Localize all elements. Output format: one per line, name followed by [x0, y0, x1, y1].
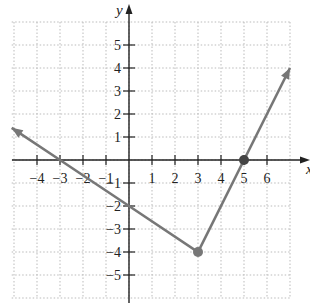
x-tick-label: −4 — [30, 171, 45, 186]
x-tick-label: 4 — [218, 171, 225, 186]
x-tick-label: 5 — [241, 171, 248, 186]
x-tick-label: 3 — [195, 171, 202, 186]
y-tick-label: 1 — [114, 130, 121, 145]
y-tick-label: −4 — [106, 245, 121, 260]
y-tick-label: 3 — [114, 84, 121, 99]
point-x-intercept — [239, 155, 249, 165]
y-tick-label: −5 — [106, 268, 121, 283]
coordinate-plane: xy−4−3−2−112345654321−1−2−3−4−5 — [0, 0, 310, 308]
y-tick-label: 2 — [114, 107, 121, 122]
y-axis-arrow-icon — [126, 4, 133, 14]
x-tick-label: 2 — [172, 171, 179, 186]
y-tick-label: −1 — [106, 176, 121, 191]
y-tick-label: 5 — [114, 38, 121, 53]
y-tick-label: −3 — [106, 222, 121, 237]
graph-container: xy−4−3−2−112345654321−1−2−3−4−5 — [0, 0, 310, 308]
x-tick-label: −3 — [53, 171, 68, 186]
y-axis-label: y — [114, 2, 123, 18]
y-tick-label: 4 — [114, 61, 121, 76]
left-arrow-icon — [12, 128, 24, 138]
x-axis-label: x — [305, 161, 310, 177]
x-tick-label: 6 — [264, 171, 271, 186]
y-tick-label: −2 — [106, 199, 121, 214]
point-vertex — [193, 247, 203, 257]
x-tick-label: 1 — [149, 171, 156, 186]
